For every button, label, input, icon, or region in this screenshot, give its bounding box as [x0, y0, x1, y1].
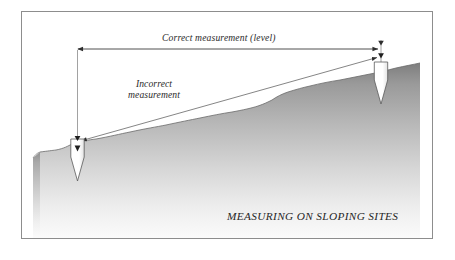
label-incorrect-measurement: Incorrectmeasurement: [117, 79, 191, 100]
figure-caption: MEASURING ON SLOPING SITES: [227, 210, 398, 223]
label-incorrect-line1: Incorrect: [136, 78, 172, 89]
label-incorrect-line2: measurement: [128, 89, 180, 100]
figure-page: Correct measurement (level) Incorrectmea…: [0, 0, 455, 260]
label-correct-measurement: Correct measurement (level): [162, 33, 276, 44]
